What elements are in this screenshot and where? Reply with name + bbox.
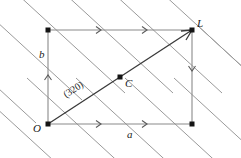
label-origin-O: O — [33, 122, 41, 134]
label-center-C: C — [125, 77, 133, 89]
lattice-line-3 — [15, 0, 125, 93]
label-lattice-L: L — [196, 17, 203, 29]
label-axis-a: a — [127, 128, 133, 140]
node-center-C — [118, 75, 123, 80]
node-lattice-L — [190, 28, 195, 33]
crystal-lattice-figure: O L C b a (320) — [0, 0, 241, 158]
node-origin-O — [46, 122, 51, 127]
lattice-line-6 — [27, 78, 137, 158]
figure-canvas: O L C b a (320) — [0, 0, 241, 158]
node-bottom-right — [190, 122, 195, 127]
lattice-line-9 — [161, 0, 241, 81]
lattice-line-12 — [174, 78, 241, 158]
label-axis-b: b — [39, 48, 45, 60]
node-top-left — [46, 28, 51, 33]
lattice-line-1 — [0, 42, 36, 123]
label-plane-index: (320) — [61, 79, 86, 101]
